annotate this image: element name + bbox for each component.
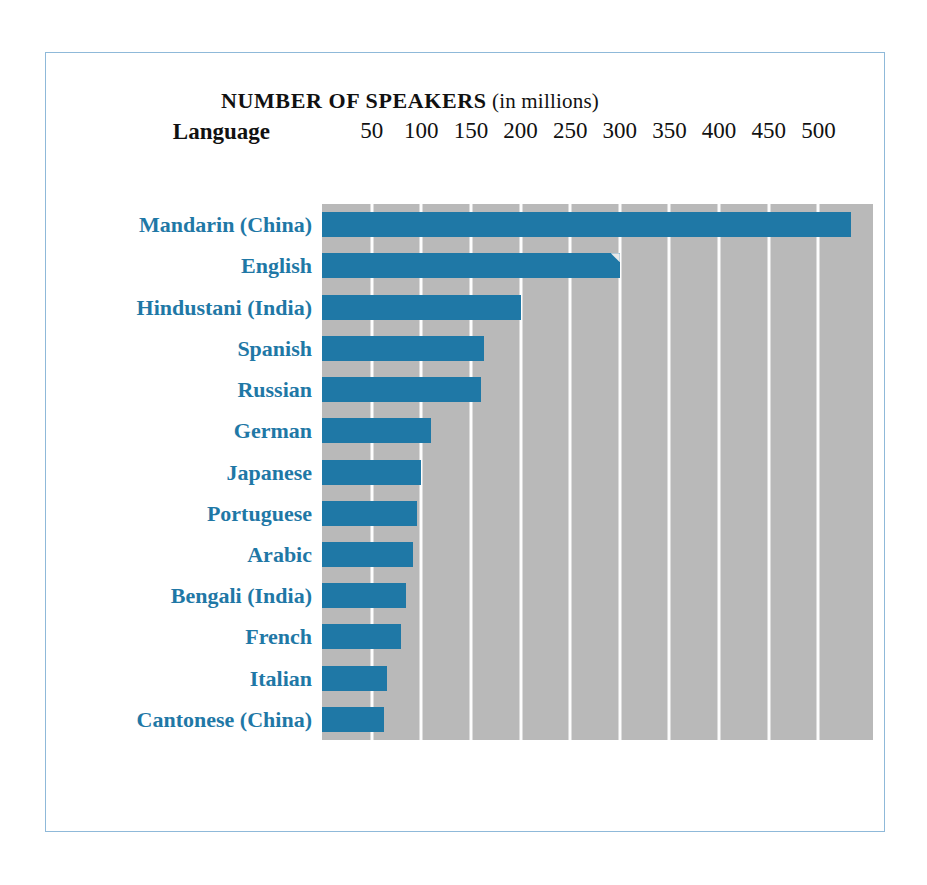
category-label: Arabic <box>60 542 312 567</box>
category-label: Cantonese (China) <box>60 707 312 732</box>
category-label: Japanese <box>60 460 312 485</box>
gridline <box>618 204 621 740</box>
gridline <box>767 204 770 740</box>
gridline <box>668 204 671 740</box>
x-tick-label: 500 <box>801 118 836 144</box>
category-label: German <box>60 418 312 443</box>
chart-title-main: NUMBER OF SPEAKERS <box>221 88 486 113</box>
chart-figure: NUMBER OF SPEAKERS (in millions) Languag… <box>0 0 927 885</box>
bar <box>322 336 484 361</box>
bar <box>322 295 521 320</box>
category-label: Mandarin (China) <box>60 212 312 237</box>
gridline <box>519 204 522 740</box>
bar <box>322 460 421 485</box>
x-axis-tick-labels: 50100150200250300350400450500 <box>0 118 927 148</box>
gridline <box>569 204 572 740</box>
category-label: Spanish <box>60 336 312 361</box>
bar <box>322 707 384 732</box>
bar <box>322 418 431 443</box>
gridline <box>718 204 721 740</box>
category-label: Portuguese <box>60 501 312 526</box>
bar <box>322 583 406 608</box>
bar <box>322 253 620 278</box>
category-labels: Mandarin (China)EnglishHindustani (India… <box>60 204 312 740</box>
chart-title: NUMBER OF SPEAKERS (in millions) <box>0 88 820 114</box>
category-label: Hindustani (India) <box>60 295 312 320</box>
category-label: Italian <box>60 666 312 691</box>
x-tick-label: 450 <box>752 118 787 144</box>
bar-notch-artifact <box>611 253 620 262</box>
x-tick-label: 100 <box>404 118 439 144</box>
bar <box>322 666 387 691</box>
x-tick-label: 200 <box>503 118 538 144</box>
bar <box>322 212 851 237</box>
x-tick-label: 300 <box>603 118 638 144</box>
chart-title-units: (in millions) <box>492 89 599 113</box>
plot-area <box>322 204 873 740</box>
category-label: French <box>60 624 312 649</box>
x-tick-label: 400 <box>702 118 737 144</box>
bar <box>322 501 417 526</box>
gridline <box>817 204 820 740</box>
gridline <box>469 204 472 740</box>
category-label: English <box>60 253 312 278</box>
bar <box>322 624 401 649</box>
category-label: Bengali (India) <box>60 583 312 608</box>
x-tick-label: 350 <box>652 118 687 144</box>
bar <box>322 377 481 402</box>
bar <box>322 542 413 567</box>
x-tick-label: 250 <box>553 118 588 144</box>
x-tick-label: 50 <box>360 118 383 144</box>
category-label: Russian <box>60 377 312 402</box>
x-tick-label: 150 <box>454 118 489 144</box>
